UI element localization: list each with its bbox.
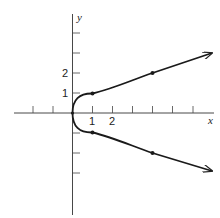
point-1-neg1 <box>91 131 95 135</box>
parabola-curve <box>73 53 213 171</box>
y-tick-label-2: 2 <box>62 67 68 79</box>
parabola-graph: y x 2 1 1 2 <box>0 0 220 218</box>
point-1-1 <box>91 92 95 96</box>
y-tick-label-1: 1 <box>62 87 68 99</box>
x-tick-label-1: 1 <box>89 115 95 127</box>
y-axis-label: y <box>76 11 82 23</box>
point-0-0 <box>71 111 74 114</box>
x-axis-label: x <box>207 114 213 126</box>
x-ticks <box>33 106 193 113</box>
upper-branch <box>73 53 213 113</box>
point-4-2 <box>151 71 155 75</box>
point-4-neg2 <box>151 151 155 155</box>
x-tick-label-2: 2 <box>109 115 115 127</box>
